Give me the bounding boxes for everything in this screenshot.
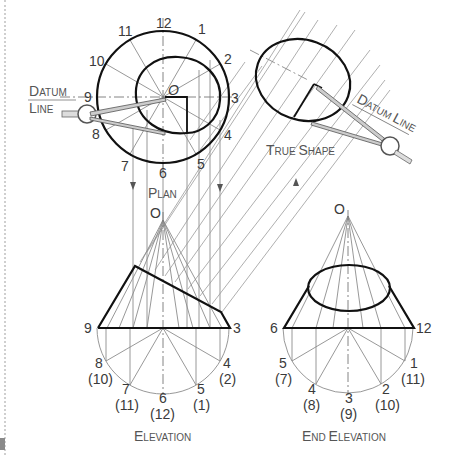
svg-text:(11): (11): [115, 397, 139, 413]
svg-text:O: O: [334, 201, 345, 217]
svg-text:(10): (10): [375, 397, 400, 413]
svg-text:3: 3: [233, 320, 241, 336]
svg-text:3: 3: [345, 390, 353, 406]
svg-text:(12): (12): [150, 406, 175, 422]
svg-text:5: 5: [279, 355, 287, 371]
svg-text:4: 4: [223, 355, 231, 371]
svg-text:5: 5: [197, 156, 205, 172]
svg-text:(10): (10): [88, 371, 113, 387]
svg-text:LINE: LINE: [29, 100, 54, 116]
svg-text:12: 12: [416, 320, 432, 336]
end-elevation-title: END ELEVATION: [302, 428, 386, 444]
svg-text:4: 4: [308, 381, 316, 397]
svg-text:4: 4: [224, 127, 232, 143]
svg-text:7: 7: [121, 158, 129, 174]
elevation-title: ELEVATION: [134, 428, 191, 444]
svg-text:(9): (9): [340, 406, 357, 422]
svg-text:8: 8: [95, 355, 103, 371]
svg-text:1: 1: [198, 21, 206, 37]
svg-text:(2): (2): [219, 371, 236, 387]
svg-text:2: 2: [224, 51, 232, 67]
true-shape-datum-label: DATUM LINE: [352, 90, 419, 137]
svg-text:(8): (8): [303, 397, 320, 413]
svg-text:10: 10: [89, 53, 105, 69]
svg-text:6: 6: [270, 320, 278, 336]
svg-text:11: 11: [118, 23, 133, 39]
svg-text:9: 9: [84, 320, 92, 336]
true-shape-title: TRUE SHAPE: [266, 142, 335, 158]
svg-text:2: 2: [382, 381, 390, 397]
svg-text:3: 3: [231, 90, 239, 106]
true-shape-view: [244, 26, 362, 134]
svg-text:(11): (11): [401, 371, 425, 387]
svg-text:12: 12: [156, 15, 172, 31]
svg-text:5: 5: [197, 381, 205, 397]
svg-text:1: 1: [410, 355, 418, 371]
svg-text:6: 6: [159, 165, 167, 181]
svg-text:DATUM LINE: DATUM LINE: [355, 91, 420, 136]
svg-text:O: O: [168, 82, 179, 98]
cone-section-diagram: 12 1 2 3 4 5 6 7 8 9 10 11 O DATUM LINE …: [0, 0, 465, 455]
svg-text:7: 7: [122, 381, 130, 397]
svg-text:(7): (7): [275, 371, 292, 387]
svg-text:9: 9: [84, 89, 92, 105]
svg-text:6: 6: [159, 390, 167, 406]
projector-arrow-up: [293, 178, 299, 186]
plan-title: PLAN: [148, 185, 177, 201]
svg-text:8: 8: [92, 126, 100, 142]
plan-compass-icon: [62, 98, 166, 135]
svg-text:O: O: [150, 205, 161, 221]
svg-text:DATUM: DATUM: [29, 83, 67, 99]
end-elevation-view: [283, 210, 414, 395]
svg-text:(1): (1): [193, 397, 210, 413]
